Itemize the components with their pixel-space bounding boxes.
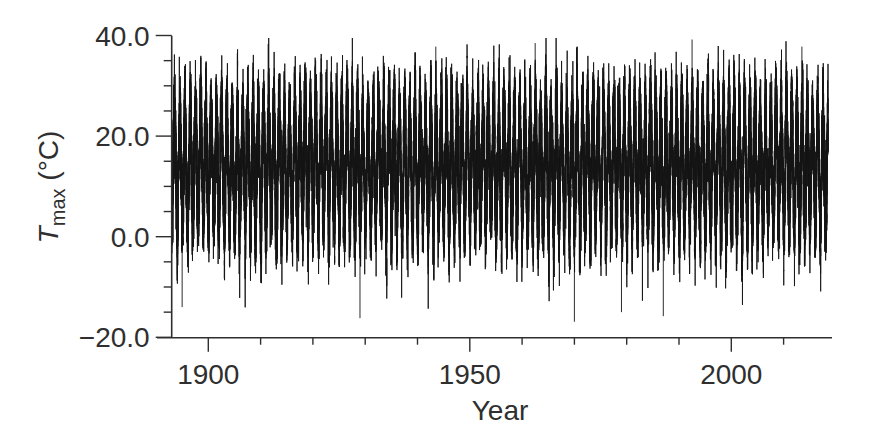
y-tick-label: 20.0 xyxy=(95,121,150,152)
tmax-series-line xyxy=(172,38,828,309)
y-tick-label: 0.0 xyxy=(111,222,150,253)
x-tick-label: 1950 xyxy=(439,359,501,390)
y-axis-title-subscript: max xyxy=(47,188,69,226)
y-tick-label: 40.0 xyxy=(95,21,150,52)
y-axis-title: Tmax (°C) xyxy=(33,131,69,244)
tmax-time-series-chart: 40.020.00.0−20.0 190019502000 Year Tmax … xyxy=(0,0,872,446)
x-tick-label: 1900 xyxy=(177,359,239,390)
x-tick-label: 2000 xyxy=(700,359,762,390)
y-axis-ticks: 40.020.00.0−20.0 xyxy=(79,21,172,354)
y-tick-label: −20.0 xyxy=(79,322,150,353)
y-axis-title-unit: (°C) xyxy=(33,131,64,189)
x-axis-title: Year xyxy=(472,395,529,426)
x-axis-ticks: 190019502000 xyxy=(177,338,783,390)
tmax-daily-series xyxy=(172,38,828,322)
